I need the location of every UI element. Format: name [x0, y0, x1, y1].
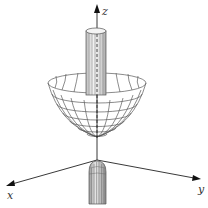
x-axis	[12, 160, 97, 184]
x-axis-arrowhead	[6, 180, 15, 186]
vertical-cylinder	[86, 28, 106, 95]
y-axis	[97, 160, 194, 178]
y-axis-label: y	[197, 183, 205, 196]
diagram-canvas: z x y	[0, 0, 208, 208]
z-axis-label: z	[101, 5, 108, 18]
y-axis-arrowhead	[192, 175, 201, 181]
lower-bullet-surface	[89, 161, 106, 204]
x-axis-label: x	[7, 189, 14, 202]
z-axis-arrowhead	[94, 4, 100, 13]
